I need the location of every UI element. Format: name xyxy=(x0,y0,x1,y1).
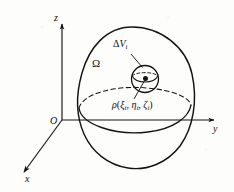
figure-drawing xyxy=(0,0,234,192)
origin-label: O xyxy=(50,116,57,126)
y-axis-label: y xyxy=(213,124,217,134)
x-axis xyxy=(24,120,62,172)
comma-2: , xyxy=(138,99,141,110)
region-label: Ω xyxy=(92,58,100,69)
x-axis-label: x xyxy=(25,174,29,184)
figure-canvas: z y x O Ω ΔVi ρ(ξi, ηi, ζi) xyxy=(0,0,234,192)
solid-region-outline xyxy=(78,27,195,169)
close-paren: ) xyxy=(149,99,152,110)
comma-1: , xyxy=(126,99,129,110)
volume-subscript: i xyxy=(126,43,128,51)
z-axis-label: z xyxy=(54,13,58,23)
leader-line-volume-element xyxy=(131,54,143,68)
sample-point-dot xyxy=(143,76,148,81)
density-point-label: ρ(ξi, ηi, ζi) xyxy=(112,100,153,112)
volume-element-label: ΔVi xyxy=(113,39,128,51)
sphere-back-arc xyxy=(132,73,158,76)
